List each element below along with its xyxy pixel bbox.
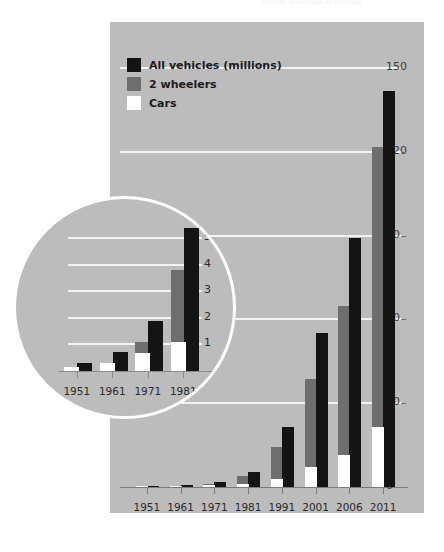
y-tick-label-150: 150 [386, 60, 420, 73]
inset-x-tick-mark-1971 [148, 372, 149, 378]
x-tick-mark-2001 [316, 487, 317, 494]
bar-all-vehicles-millions--2011 [383, 91, 395, 487]
legend-label-two_wheelers: 2 wheelers [149, 78, 217, 91]
inset-x-tick-label-1971: 1971 [131, 385, 165, 397]
x-tick-mark-2006 [349, 487, 350, 494]
inset-bar-cars-1981 [171, 342, 186, 371]
x-tick-mark-1951 [147, 487, 148, 494]
legend-swatch-icon-cars [127, 96, 141, 110]
y-tick-mark-120 [401, 152, 406, 153]
inset-bar-cars-1961 [100, 363, 115, 371]
bar-all-vehicles-millions--1971 [214, 482, 226, 487]
x-tick-mark-1971 [214, 487, 215, 494]
magnifier-inset: 123451951196119711981 [13, 196, 236, 419]
y-tick-mark-60 [401, 319, 406, 320]
x-tick-mark-1961 [181, 487, 182, 494]
legend-item-all_vehicles: All vehicles (millions) [127, 58, 282, 72]
legend-swatch-icon-two_wheelers [127, 77, 141, 91]
inset-x-tick-mark-1961 [112, 372, 113, 378]
bar-all-vehicles-millions--1951 [147, 486, 159, 487]
inset-y-tick-label-2: 2 [204, 310, 222, 323]
inset-y-tick-label-1: 1 [204, 336, 222, 349]
y-tick-mark-90 [401, 236, 406, 237]
bar-cars-1981 [237, 484, 249, 487]
chart-legend: All vehicles (millions)2 wheelersCars [127, 58, 282, 115]
inset-bar-cars-1951 [64, 367, 79, 371]
legend-label-all_vehicles: All vehicles (millions) [149, 59, 282, 72]
inset-bar-all-vehicles-millions--1971 [148, 321, 163, 371]
x-tick-mark-2011 [383, 487, 384, 494]
inset-x-tick-mark-1951 [77, 372, 78, 378]
bar-cars-1951 [136, 486, 148, 487]
inset-bar-cars-1971 [135, 353, 150, 371]
inset-x-tick-label-1981: 1981 [166, 385, 200, 397]
legend-item-two_wheelers: 2 wheelers [127, 77, 282, 91]
inset-gridline-5 [68, 237, 202, 239]
bar-all-vehicles-millions--1981 [248, 472, 260, 487]
inset-y-tick-label-4: 4 [204, 257, 222, 270]
inset-bar-all-vehicles-millions--1981 [184, 228, 199, 371]
legend-swatch-icon-all_vehicles [127, 58, 141, 72]
inset-bar-all-vehicles-millions--1961 [113, 352, 128, 371]
bar-cars-2011 [372, 427, 384, 487]
legend-label-cars: Cars [149, 97, 176, 110]
bar-cars-1961 [170, 486, 182, 487]
x-tick-mark-1981 [248, 487, 249, 494]
bar-all-vehicles-millions--2006 [349, 238, 361, 487]
top-caption: Growth in number of vehicles [262, 0, 422, 6]
x-axis-line [120, 487, 408, 488]
inset-x-tick-label-1961: 1961 [95, 385, 129, 397]
inset-y-tick-label-5: 5 [204, 230, 222, 243]
bar-all-vehicles-millions--1991 [282, 427, 294, 487]
bar-cars-1991 [271, 479, 283, 487]
y-tick-mark-30 [401, 403, 406, 404]
bar-cars-2006 [338, 455, 350, 487]
legend-item-cars: Cars [127, 96, 282, 110]
inset-x-tick-label-1951: 1951 [60, 385, 94, 397]
inset-plot-area: 123451951196119711981 [16, 199, 233, 416]
inset-bar-all-vehicles-millions--1951 [77, 363, 92, 371]
inset-y-tick-label-3: 3 [204, 283, 222, 296]
inset-gridline-4 [68, 264, 202, 266]
bar-cars-2001 [305, 467, 317, 487]
bar-all-vehicles-millions--2001 [316, 333, 328, 487]
inset-x-tick-mark-1981 [183, 372, 184, 378]
gridline-120 [120, 151, 402, 153]
bar-cars-1971 [203, 485, 215, 487]
inset-x-axis-line [58, 371, 213, 372]
x-tick-mark-1991 [282, 487, 283, 494]
bar-all-vehicles-millions--1961 [181, 485, 193, 487]
